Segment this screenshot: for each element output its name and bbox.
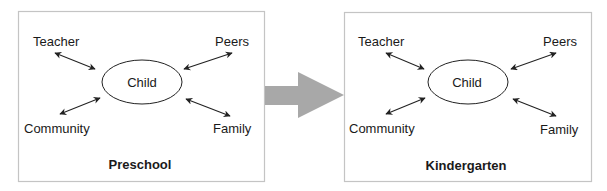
transition-arrow-icon [265,72,344,118]
teacher-label: Teacher [33,34,80,49]
child-label: Child [452,75,482,90]
diagram-canvas: Child Teacher Peers Community Family Pre… [0,0,607,191]
panel-kindergarten: Child Teacher Peers Community Family Kin… [345,13,592,182]
family-label: Family [213,121,252,136]
peers-label: Peers [543,34,577,49]
family-label: Family [540,122,579,137]
peers-label: Peers [215,34,249,49]
panel-title: Kindergarten [426,158,507,173]
community-label: Community [24,121,90,136]
panel-preschool: Child Teacher Peers Community Family Pre… [19,12,265,182]
teacher-label: Teacher [358,34,405,49]
community-label: Community [349,121,415,136]
child-label: Child [127,75,157,90]
panel-title: Preschool [109,157,172,172]
